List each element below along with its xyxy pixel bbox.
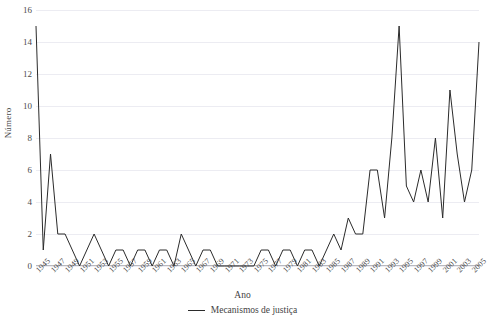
y-tick-label: 10 bbox=[10, 102, 32, 111]
y-tick-label: 6 bbox=[10, 166, 32, 175]
plot-area: 0246810121416 bbox=[36, 10, 479, 266]
y-tick-label: 16 bbox=[10, 6, 32, 15]
y-tick-label: 14 bbox=[10, 38, 32, 47]
x-axis-title: Ano bbox=[0, 290, 485, 300]
y-tick-label: 12 bbox=[10, 70, 32, 79]
series-mecanismos-de-justica bbox=[36, 10, 479, 266]
y-tick-label: 2 bbox=[10, 230, 32, 239]
y-tick-label: 8 bbox=[10, 134, 32, 143]
y-axis-title: Número bbox=[3, 88, 13, 158]
series-line bbox=[36, 26, 479, 266]
chart-legend: Mecanismos de justiça bbox=[0, 305, 485, 315]
y-tick-label: 0 bbox=[10, 262, 32, 271]
legend-line-swatch bbox=[188, 310, 205, 311]
legend-label: Mecanismos de justiça bbox=[211, 305, 298, 315]
y-tick-label: 4 bbox=[10, 198, 32, 207]
